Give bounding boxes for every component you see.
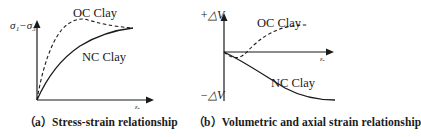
oc-clay-label: OC Clay [257, 17, 301, 30]
stress-strain-panel: σ₁−σ₃ OC Clay NC Clay εₐ （a）Stress-strai… [0, 0, 200, 137]
negative-volume-label: −△V [200, 89, 224, 101]
caption-a: （a）Stress-strain relationship [24, 117, 178, 129]
x-axis-arrow-icon [146, 97, 154, 104]
nc-clay-label: NC Clay [271, 77, 315, 90]
volumetric-strain-panel: +△V −△V OC Clay NC Clay εₐ （b）Volumetric… [200, 0, 403, 137]
x-axis-label: εₐ [320, 56, 325, 63]
positive-volume-label: +△V [200, 9, 224, 21]
caption-b: （b）Volumetric and axial strain relations… [193, 117, 421, 129]
nc-clay-label: NC Clay [82, 51, 126, 64]
nc-clay-curve [37, 28, 133, 100]
oc-clay-label: OC Clay [73, 7, 117, 20]
x-axis-arrow-icon [326, 49, 334, 56]
x-axis-label: εₐ [135, 104, 140, 111]
y-axis-label: σ₁−σ₃ [10, 20, 36, 31]
